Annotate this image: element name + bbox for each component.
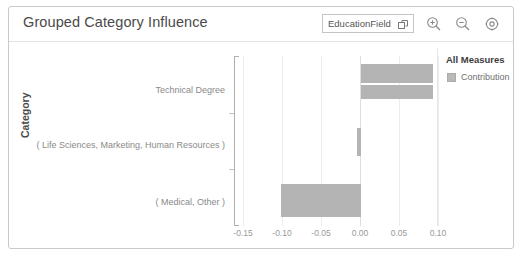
- zoom-out-icon[interactable]: [454, 15, 472, 33]
- y-axis-label-2: ( Medical, Other ): [25, 197, 225, 207]
- y-axis-line: [234, 56, 235, 226]
- gridline-0.10: [438, 56, 439, 226]
- card-header: Grouped Category Influence EducationFiel…: [9, 7, 513, 41]
- chart-card: Grouped Category Influence EducationFiel…: [8, 6, 514, 249]
- x-axis-tick-label-4: 0.05: [379, 228, 419, 238]
- education-field-value: EducationField: [328, 18, 391, 29]
- y-axis-title: Category: [19, 92, 31, 138]
- y-axis-label-1: ( Life Sciences, Marketing, Human Resour…: [25, 140, 225, 150]
- y-axis-cap-top: [234, 56, 239, 57]
- gear-icon[interactable]: [483, 15, 501, 33]
- bar-life-sciences-marketing-human-resources[interactable]: [357, 128, 361, 156]
- x-axis-tick-label-0: -0.15: [223, 228, 263, 238]
- bar-medical-other[interactable]: [281, 184, 361, 217]
- legend-item-contribution[interactable]: Contribution: [461, 72, 510, 82]
- bar-technical-degree-1[interactable]: [361, 64, 433, 83]
- x-axis-tick-label-1: -0.10: [262, 228, 302, 238]
- zoom-in-icon[interactable]: [425, 15, 443, 33]
- gridline--0.15: [243, 56, 244, 226]
- popout-icon[interactable]: [398, 19, 409, 30]
- y-axis-cap-bottom: [234, 225, 239, 226]
- legend-swatch-contribution: [447, 73, 456, 82]
- bar-technical-degree-2[interactable]: [361, 85, 433, 99]
- legend-title: All Measures: [446, 54, 505, 65]
- y-axis-group-tick-2: [229, 169, 234, 170]
- y-axis-label-0: Technical Degree: [25, 85, 225, 95]
- x-axis-tick-label-3: 0.00: [340, 228, 380, 238]
- education-field-input[interactable]: EducationField: [322, 14, 414, 33]
- x-axis-tick-label-5: 0.10: [418, 228, 458, 238]
- x-axis-tick-label-2: -0.05: [301, 228, 341, 238]
- chart-plot-area: Category Technical Degree ( Life Science…: [9, 42, 513, 248]
- legend-divider: [437, 48, 438, 226]
- y-axis-group-tick-1: [229, 113, 234, 114]
- page-title: Grouped Category Influence: [23, 14, 208, 30]
